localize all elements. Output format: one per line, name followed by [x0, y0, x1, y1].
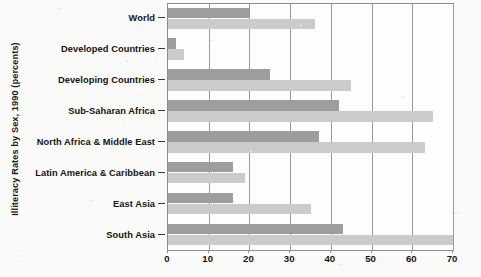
- bar-male: [168, 8, 249, 19]
- category-label-row: World: [22, 3, 165, 34]
- category-label-row: Sub-Saharan Africa: [22, 96, 165, 127]
- category-label: East Asia: [113, 199, 155, 209]
- bar-group: [168, 158, 453, 189]
- bar-male: [168, 38, 176, 49]
- category-label: Developing Countries: [58, 75, 155, 85]
- category-tick-mark: [158, 110, 165, 111]
- x-axis-tick-label: 70: [437, 253, 467, 264]
- bar-female: [168, 49, 184, 60]
- bar-group: [168, 97, 453, 128]
- bar-group: [168, 66, 453, 97]
- category-label-row: North Africa & Middle East: [22, 127, 165, 158]
- x-axis-tick-label: 10: [193, 253, 223, 264]
- paper-speckle: [126, 60, 128, 62]
- bar-male: [168, 131, 319, 142]
- bar-female: [168, 111, 433, 122]
- x-axis-tick-labels: 010203040506070: [0, 253, 481, 271]
- category-label: South Asia: [106, 230, 155, 240]
- category-label: World: [129, 13, 155, 23]
- category-label-row: South Asia: [22, 219, 165, 250]
- bar-group: [168, 220, 453, 251]
- x-axis-tick-label: 20: [233, 253, 263, 264]
- paper-speckle: [90, 200, 92, 202]
- bar-male: [168, 100, 339, 111]
- category-label-column: WorldDeveloped CountriesDeveloping Count…: [22, 3, 165, 250]
- category-label: North Africa & Middle East: [37, 137, 155, 147]
- gridline: [453, 4, 454, 251]
- category-tick-mark: [158, 203, 165, 204]
- bar-female: [168, 235, 453, 246]
- x-axis-baseline: [167, 250, 453, 251]
- paper-speckle: [402, 96, 404, 98]
- bar-female: [168, 204, 311, 215]
- category-label-row: Developing Countries: [22, 65, 165, 96]
- bar-female: [168, 173, 245, 184]
- x-axis-tick-label: 40: [315, 253, 345, 264]
- category-tick-mark: [158, 234, 165, 235]
- bar-male: [168, 224, 343, 235]
- bar-male: [168, 193, 233, 204]
- category-label: Latin America & Caribbean: [35, 168, 155, 178]
- bar-female: [168, 19, 315, 30]
- paper-speckle: [210, 40, 212, 42]
- bar-female: [168, 142, 425, 153]
- bar-group: [168, 4, 453, 35]
- bar-group: [168, 189, 453, 220]
- x-axis-tick-label: 50: [356, 253, 386, 264]
- paper-speckle: [455, 212, 457, 214]
- paper-speckle: [18, 255, 20, 257]
- category-label: Developed Countries: [61, 44, 155, 54]
- category-tick-mark: [158, 48, 165, 49]
- paper-speckle: [250, 150, 252, 152]
- x-axis-tick-label: 0: [152, 253, 182, 264]
- category-label: Sub-Saharan Africa: [68, 106, 155, 116]
- category-tick-mark: [158, 79, 165, 80]
- paper-speckle: [58, 8, 60, 10]
- category-label-row: Latin America & Caribbean: [22, 157, 165, 188]
- paper-speckle: [340, 264, 342, 266]
- category-tick-mark: [158, 17, 165, 18]
- bar-male: [168, 162, 233, 173]
- paper-speckle: [300, 24, 302, 26]
- x-axis-tick-label: 60: [396, 253, 426, 264]
- category-label-row: East Asia: [22, 188, 165, 219]
- category-tick-mark: [158, 172, 165, 173]
- category-tick-mark: [158, 141, 165, 142]
- y-axis-title: Illiteracy Rates by Sex, 1990 (percents): [10, 4, 20, 254]
- bar-female: [168, 80, 351, 91]
- illiteracy-rates-bar-chart: Illiteracy Rates by Sex, 1990 (percents)…: [0, 0, 481, 277]
- bar-group: [168, 128, 453, 159]
- y-axis-title-container: Illiteracy Rates by Sex, 1990 (percents): [0, 0, 22, 265]
- x-axis-tick-label: 30: [274, 253, 304, 264]
- category-label-row: Developed Countries: [22, 34, 165, 65]
- bar-male: [168, 69, 270, 80]
